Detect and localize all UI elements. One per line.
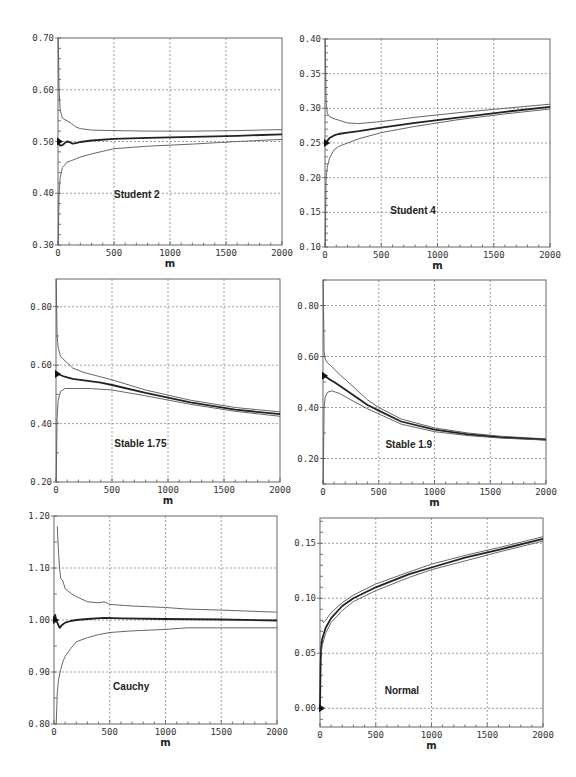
y-tick-label: 0.60 — [297, 352, 319, 362]
grid — [325, 39, 550, 247]
y-tick-label: 0.40 — [297, 403, 319, 413]
x-tick-label: 500 — [368, 730, 384, 740]
x-tick-label: 1000 — [159, 248, 181, 258]
panel-cauchy: 0.800.901.001.101.200500100015002000mCau… — [28, 511, 288, 748]
upper-band-line — [323, 280, 546, 439]
y-tick-label: 0.15 — [299, 207, 321, 217]
x-axis-label: m — [160, 737, 170, 748]
y-tick-label: 1.00 — [28, 615, 50, 625]
panel-label: Student 4 — [390, 205, 436, 216]
y-tick-label: 0.60 — [30, 360, 52, 370]
x-tick-label: 500 — [104, 485, 120, 495]
upper-band-line — [57, 526, 277, 612]
panel-student4: 0.100.150.200.250.300.350.40050010001500… — [299, 34, 561, 271]
x-axis-label: m — [165, 258, 175, 269]
y-tick-label: 0.20 — [30, 477, 52, 487]
x-tick-label: 1500 — [210, 727, 232, 737]
y-tick-label: 0.90 — [28, 667, 50, 677]
x-tick-label: 500 — [371, 487, 387, 497]
y-tick-label: 0.00 — [294, 703, 316, 713]
panel-label: Student 2 — [114, 189, 160, 200]
grid — [323, 280, 546, 484]
x-tick-label: 0 — [55, 248, 60, 258]
x-tick-label: 0 — [51, 727, 56, 737]
y-tick-label: 0.30 — [299, 103, 321, 113]
x-axis-label: m — [429, 497, 439, 508]
panel-stable-1-75: 0.200.400.600.800500100015002000mStable … — [30, 279, 291, 506]
y-tick-label: 0.25 — [299, 138, 321, 148]
y-tick-label: 0.20 — [297, 454, 319, 464]
lower-band-line — [56, 628, 277, 724]
x-tick-label: 1500 — [215, 248, 237, 258]
y-tick-label: 0.60 — [32, 85, 54, 95]
y-tick-label: 0.40 — [32, 188, 54, 198]
x-tick-label: 1000 — [155, 727, 177, 737]
true-value-marker-icon — [55, 370, 61, 378]
x-tick-label: 0 — [322, 250, 327, 260]
y-tick-label: 0.40 — [299, 34, 321, 44]
x-tick-label: 0 — [317, 730, 322, 740]
panel-label: Stable 1.9 — [385, 439, 432, 450]
x-tick-label: 0 — [53, 485, 58, 495]
y-tick-label: 0.30 — [32, 240, 54, 250]
x-tick-label: 0 — [320, 487, 325, 497]
x-tick-label: 500 — [106, 248, 122, 258]
y-tick-label: 0.80 — [30, 302, 52, 312]
y-tick-label: 0.80 — [28, 719, 50, 729]
y-tick-label: 0.05 — [294, 648, 316, 658]
x-axis-label: m — [426, 740, 436, 751]
x-tick-label: 1000 — [421, 730, 443, 740]
panel-label: Stable 1.75 — [114, 438, 167, 449]
y-tick-label: 0.50 — [32, 137, 54, 147]
y-tick-label: 0.80 — [297, 301, 319, 311]
grid — [58, 38, 282, 245]
y-tick-label: 0.15 — [294, 538, 316, 548]
x-tick-label: 1500 — [479, 487, 501, 497]
y-tick-label: 0.10 — [299, 242, 321, 252]
y-tick-label: 0.10 — [294, 593, 316, 603]
x-tick-label: 500 — [102, 727, 118, 737]
x-tick-label: 1000 — [157, 485, 179, 495]
x-tick-label: 1000 — [427, 250, 449, 260]
x-axis-label: m — [432, 260, 442, 271]
panel-stable-1-9: 0.200.400.600.800500100015002000mStable … — [297, 280, 557, 508]
x-tick-label: 2000 — [539, 250, 561, 260]
y-tick-label: 0.35 — [299, 69, 321, 79]
x-tick-label: 2000 — [269, 485, 291, 495]
x-tick-label: 1000 — [424, 487, 446, 497]
figure-canvas: 0.300.400.500.600.700500100015002000mStu… — [0, 0, 576, 777]
x-axis-label: m — [163, 495, 173, 506]
y-tick-label: 0.20 — [299, 173, 321, 183]
y-tick-label: 1.10 — [28, 563, 50, 573]
panel-normal: 0.000.050.100.150500100015002000mNormal — [294, 518, 554, 751]
panel-label: Cauchy — [113, 681, 150, 692]
y-tick-label: 0.70 — [32, 33, 54, 43]
panel-label: Normal — [385, 685, 420, 696]
panel-student2: 0.300.400.500.600.700500100015002000mStu… — [32, 33, 293, 269]
x-tick-label: 2000 — [271, 248, 293, 258]
x-tick-label: 2000 — [535, 487, 557, 497]
x-tick-label: 500 — [373, 250, 389, 260]
y-tick-label: 1.20 — [28, 511, 50, 521]
x-tick-label: 1500 — [476, 730, 498, 740]
x-tick-label: 1500 — [213, 485, 235, 495]
x-tick-label: 1500 — [483, 250, 505, 260]
true-value-marker-icon — [319, 704, 325, 712]
y-tick-label: 0.40 — [30, 419, 52, 429]
x-tick-label: 2000 — [532, 730, 554, 740]
x-tick-label: 2000 — [266, 727, 288, 737]
